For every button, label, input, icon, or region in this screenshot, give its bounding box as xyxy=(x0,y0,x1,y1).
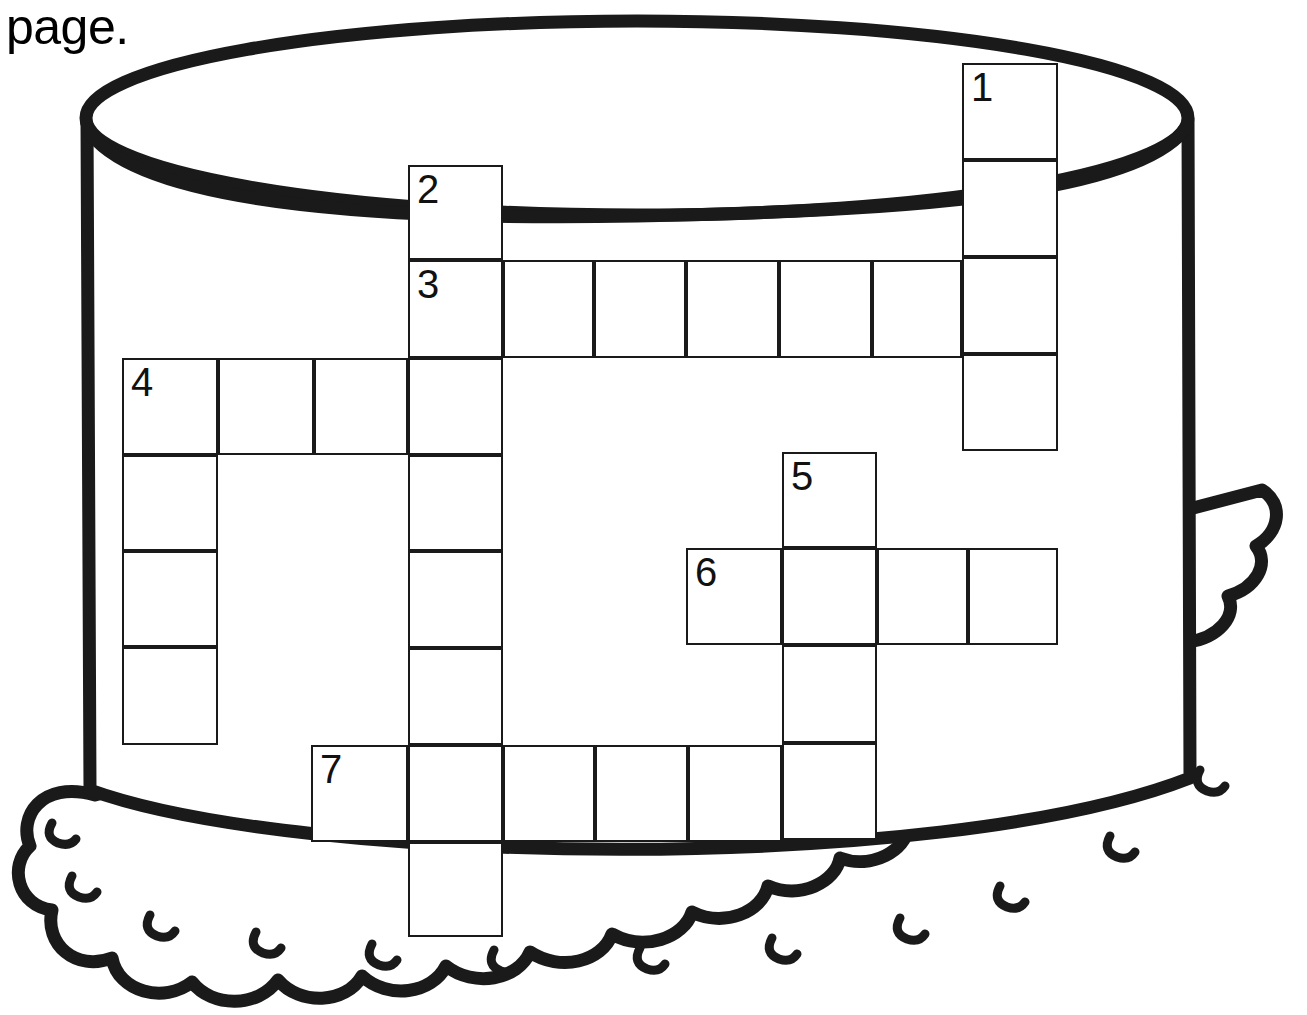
crossword-cell[interactable] xyxy=(408,551,503,648)
crossword-cell[interactable] xyxy=(686,260,779,358)
crossword-cell[interactable] xyxy=(594,260,686,358)
crossword-cell[interactable] xyxy=(782,548,877,645)
worksheet-canvas: page. | 1234567 xyxy=(0,0,1307,1015)
crossword-cell[interactable] xyxy=(314,358,408,455)
crossword-cell[interactable] xyxy=(408,745,503,842)
crossword-cell[interactable] xyxy=(962,160,1058,257)
crossword-cell-start-7[interactable]: 7 xyxy=(311,745,408,842)
crossword-cell[interactable] xyxy=(503,745,595,842)
crossword-cell-start-4[interactable]: 4 xyxy=(122,358,218,455)
clue-number-6: 6 xyxy=(695,551,717,593)
crossword-cell[interactable] xyxy=(782,743,877,840)
crossword-cell[interactable] xyxy=(218,358,314,455)
crossword-cell[interactable] xyxy=(595,745,688,842)
crossword-cell[interactable] xyxy=(408,358,503,455)
crossword-cell-start-5[interactable]: 5 xyxy=(782,452,877,548)
crossword-cell-start-1[interactable]: 1 xyxy=(962,63,1058,160)
crossword-cell-start-6[interactable]: 6 xyxy=(686,548,782,645)
crossword-cell[interactable] xyxy=(782,645,877,743)
crossword-cell[interactable] xyxy=(408,842,503,937)
crossword-cell[interactable] xyxy=(962,257,1058,354)
crossword-cell[interactable] xyxy=(779,260,872,358)
crossword-cell-start-2[interactable]: 2 xyxy=(408,165,503,260)
clue-number-5: 5 xyxy=(791,455,813,497)
crossword-cell[interactable] xyxy=(877,548,968,645)
clue-number-7: 7 xyxy=(320,748,342,790)
crossword-cell[interactable] xyxy=(872,260,962,358)
crossword-cell[interactable] xyxy=(122,455,218,551)
crossword-cell[interactable] xyxy=(122,647,218,745)
clue-number-4: 4 xyxy=(131,361,153,403)
crossword-cell[interactable] xyxy=(408,648,503,745)
crossword-cell[interactable] xyxy=(962,354,1058,451)
crossword-cell[interactable] xyxy=(408,455,503,551)
crossword-cell[interactable] xyxy=(503,260,594,358)
clue-number-3: 3 xyxy=(417,263,439,305)
clue-number-2: 2 xyxy=(417,168,439,210)
crossword-cell[interactable] xyxy=(688,745,782,842)
crossword-cell[interactable] xyxy=(122,551,218,647)
clue-number-1: 1 xyxy=(971,66,993,108)
crossword-cell-start-3[interactable]: 3 xyxy=(408,260,503,358)
crossword-cell[interactable] xyxy=(968,548,1058,645)
crossword-grid: 1234567 xyxy=(0,0,1307,1015)
